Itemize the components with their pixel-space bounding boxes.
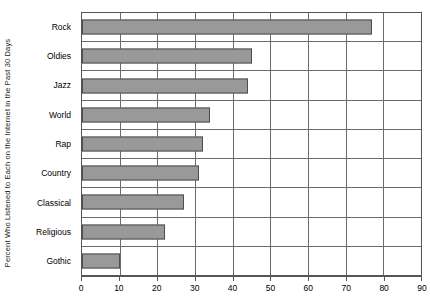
y-axis-title: Percent Who Listened to Each on the Inte… [0, 0, 14, 306]
x-tick [421, 276, 422, 281]
x-tick [119, 276, 120, 281]
bar-row [82, 159, 421, 188]
category-label: Gothic [14, 247, 76, 276]
x-tick-label: 20 [152, 283, 161, 293]
bar [82, 49, 252, 64]
bar-row [82, 247, 421, 275]
category-label: Country [14, 159, 76, 188]
category-label: Classical [14, 188, 76, 217]
bar-row [82, 218, 421, 247]
x-tick-label: 60 [304, 283, 313, 293]
plot-area [81, 12, 422, 276]
bar [82, 20, 372, 35]
category-label: Rock [14, 12, 76, 41]
x-tick [233, 276, 234, 281]
category-label: World [14, 100, 76, 129]
category-axis-labels: RockOldiesJazzWorldRapCountryClassicalRe… [14, 12, 76, 276]
category-label: Jazz [14, 71, 76, 100]
bar [82, 136, 203, 151]
bar-row [82, 101, 421, 130]
x-tick [308, 276, 309, 281]
bar-row [82, 130, 421, 159]
x-tick-label: 40 [228, 283, 237, 293]
bar [82, 195, 184, 210]
x-axis-ticks [81, 276, 422, 281]
bar-row [82, 13, 421, 42]
x-axis-tick-labels: 0102030405060708090 [81, 283, 422, 295]
x-tick-label: 80 [379, 283, 388, 293]
bar [82, 78, 248, 93]
x-tick [157, 276, 158, 281]
x-tick [346, 276, 347, 281]
x-tick-label: 30 [190, 283, 199, 293]
category-label: Religious [14, 217, 76, 246]
bar [82, 107, 210, 122]
x-axis-caption [81, 298, 422, 306]
bar-row [82, 71, 421, 100]
x-tick-label: 50 [266, 283, 275, 293]
category-label: Oldies [14, 41, 76, 70]
category-label: Rap [14, 129, 76, 158]
bar-series [82, 13, 421, 275]
x-tick-label: 10 [114, 283, 123, 293]
bar-row [82, 188, 421, 217]
x-tick-label: 70 [341, 283, 350, 293]
x-tick [384, 276, 385, 281]
x-tick [195, 276, 196, 281]
bar-chart: Percent Who Listened to Each on the Inte… [0, 0, 430, 306]
x-tick [81, 276, 82, 281]
bar [82, 253, 120, 268]
bar [82, 166, 199, 181]
bar-row [82, 42, 421, 71]
bar [82, 224, 165, 239]
x-tick-label: 90 [417, 283, 426, 293]
x-tick-label: 0 [79, 283, 84, 293]
x-tick [270, 276, 271, 281]
